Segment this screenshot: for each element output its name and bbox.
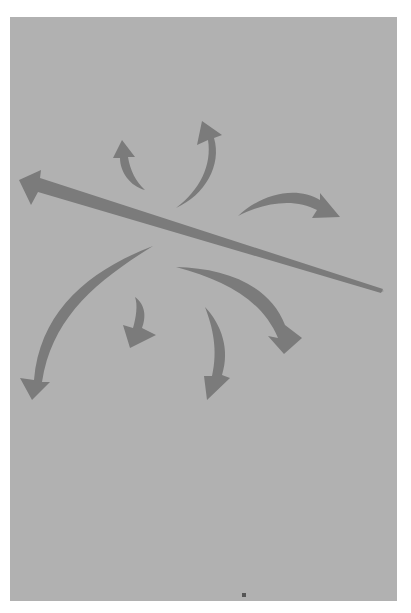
scan-dot <box>242 593 246 597</box>
figure-panel <box>10 17 397 601</box>
arrows-illustration <box>10 17 397 601</box>
